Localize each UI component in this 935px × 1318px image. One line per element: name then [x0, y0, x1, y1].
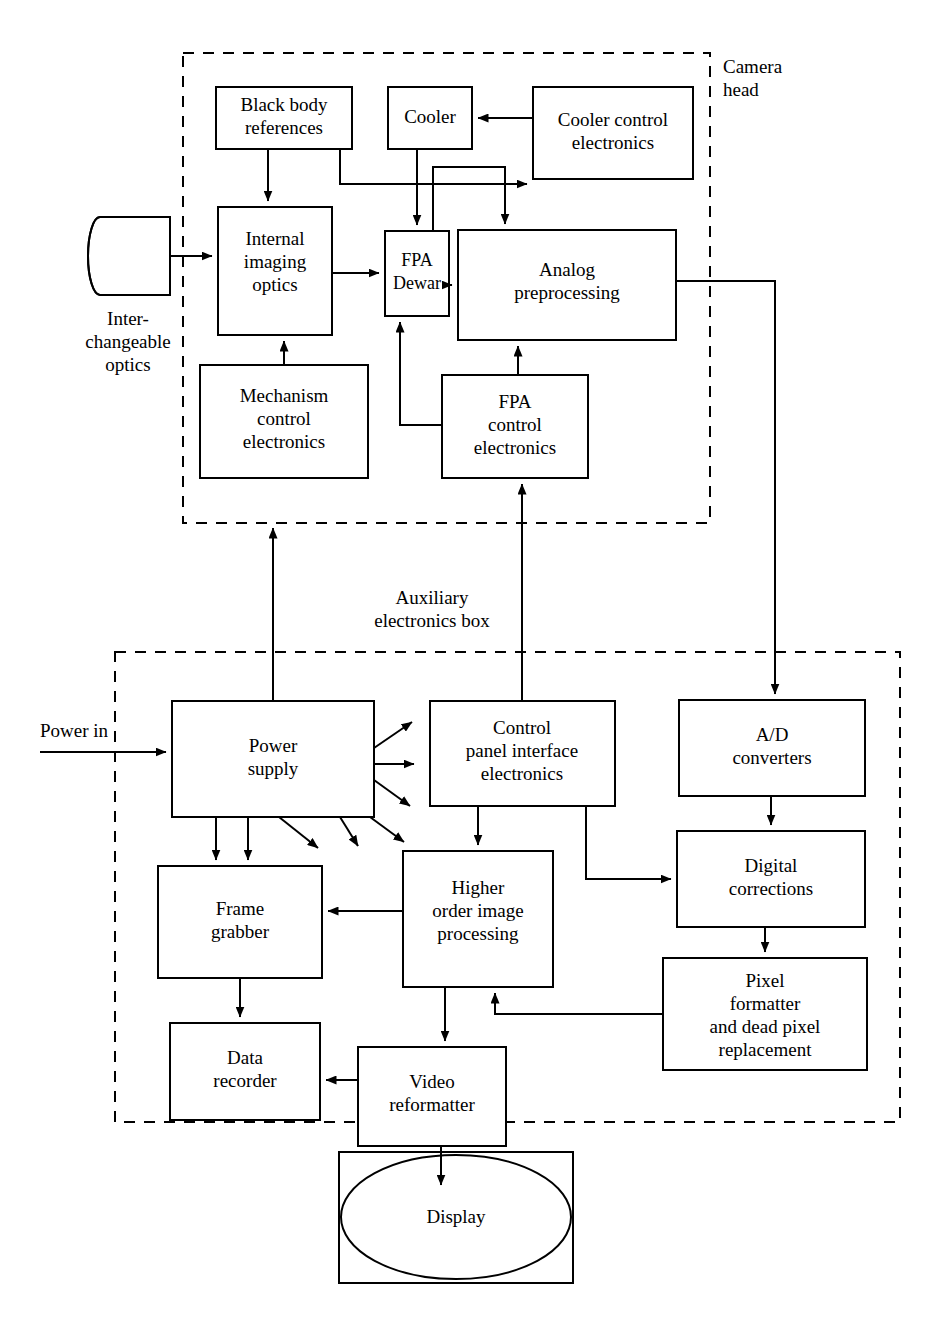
- internal-imaging-line2: imaging: [244, 251, 307, 272]
- video-reformatter-line2: reformatter: [389, 1094, 475, 1115]
- control-panel-line1: Control: [493, 717, 551, 738]
- black-body-references-line1: Black body: [240, 94, 328, 115]
- analog-preprocessing-line2: preprocessing: [514, 282, 620, 303]
- mechanism-control-line1: Mechanism: [240, 385, 329, 406]
- interchangeable-optics-caption-3: optics: [105, 354, 150, 375]
- block-black-body-references[interactable]: Black body references: [216, 87, 352, 149]
- block-analog-preprocessing[interactable]: Analog preprocessing: [458, 230, 676, 340]
- fpa-control-line1: FPA: [498, 391, 531, 412]
- block-video-reformatter[interactable]: Video reformatter: [358, 1047, 506, 1146]
- higher-order-line1: Higher: [452, 877, 505, 898]
- link-fpa-control-to-fpa-dewar: [400, 322, 442, 425]
- block-mechanism-control-electronics[interactable]: Mechanism control electronics: [200, 365, 368, 478]
- mechanism-control-line3: electronics: [243, 431, 325, 452]
- cooler-label: Cooler: [404, 106, 456, 127]
- higher-order-line3: processing: [437, 923, 519, 944]
- link-power-fanout-3: [374, 780, 410, 806]
- block-fpa-dewar[interactable]: FPA Dewar: [385, 231, 449, 316]
- block-control-panel-interface-electronics[interactable]: Control panel interface electronics: [430, 701, 615, 806]
- block-ad-converters[interactable]: A/D converters: [679, 700, 865, 796]
- fpa-dewar-line2: Dewar: [393, 273, 441, 293]
- link-power-fanout-6: [340, 817, 358, 846]
- internal-imaging-line1: Internal: [245, 228, 304, 249]
- video-reformatter-line1: Video: [409, 1071, 454, 1092]
- block-data-recorder[interactable]: Data recorder: [170, 1023, 320, 1120]
- aux-box-label-line2: electronics box: [374, 610, 490, 631]
- data-recorder-line1: Data: [227, 1047, 263, 1068]
- control-panel-line3: electronics: [481, 763, 563, 784]
- interchangeable-optics-caption-2: changeable: [85, 331, 170, 352]
- control-panel-line2: panel interface: [466, 740, 578, 761]
- power-supply-line1: Power: [249, 735, 298, 756]
- aux-box-label-line1: Auxiliary: [396, 587, 469, 608]
- link-control-panel-to-digital-corrections: [586, 806, 671, 879]
- frame-grabber-line2: grabber: [211, 921, 270, 942]
- fpa-dewar-line1: FPA: [401, 250, 432, 270]
- diagram-canvas: Camera head Auxiliary electronics box In…: [0, 0, 935, 1318]
- pixel-formatter-line2: formatter: [730, 993, 801, 1014]
- display-label: Display: [426, 1206, 486, 1227]
- ad-converters-line2: converters: [732, 747, 811, 768]
- frame-grabber-line1: Frame: [216, 898, 265, 919]
- pixel-formatter-line1: Pixel: [745, 970, 784, 991]
- block-display[interactable]: Display: [339, 1152, 573, 1283]
- digital-corrections-line2: corrections: [729, 878, 813, 899]
- interchangeable-optics-caption-1: Inter-: [107, 308, 149, 329]
- block-fpa-control-electronics[interactable]: FPA control electronics: [442, 375, 588, 478]
- mechanism-control-line2: control: [257, 408, 311, 429]
- block-cooler-control-electronics[interactable]: Cooler control electronics: [533, 87, 693, 179]
- block-cooler[interactable]: Cooler: [388, 87, 472, 149]
- block-digital-corrections[interactable]: Digital corrections: [677, 831, 865, 927]
- internal-imaging-line3: optics: [252, 274, 297, 295]
- power-supply-line2: supply: [248, 758, 299, 779]
- link-power-fanout-1: [374, 722, 412, 748]
- block-higher-order-image-processing[interactable]: Higher order image processing: [403, 851, 553, 987]
- pixel-formatter-line3: and dead pixel: [710, 1016, 821, 1037]
- cooler-control-line2: electronics: [572, 132, 654, 153]
- ad-converters-line1: A/D: [756, 724, 789, 745]
- link-power-fanout-4: [370, 817, 404, 842]
- power-in-label: Power in: [40, 720, 109, 741]
- block-pixel-formatter[interactable]: Pixel formatter and dead pixel replaceme…: [663, 958, 867, 1070]
- block-diagram-svg: Camera head Auxiliary electronics box In…: [0, 0, 935, 1318]
- data-recorder-line2: recorder: [213, 1070, 277, 1091]
- link-analog-preprocessing-to-ad-converters: [676, 281, 775, 694]
- fpa-control-line3: electronics: [474, 437, 556, 458]
- fpa-control-line2: control: [488, 414, 542, 435]
- camera-head-label-line2: head: [723, 79, 759, 100]
- black-body-references-line2: references: [245, 117, 323, 138]
- analog-preprocessing-line1: Analog: [539, 259, 595, 280]
- block-frame-grabber[interactable]: Frame grabber: [158, 866, 322, 978]
- camera-head-label-line1: Camera: [723, 56, 783, 77]
- link-fpa-dewar-to-analog-preprocessing-top: [433, 167, 505, 231]
- cooler-control-line1: Cooler control: [558, 109, 668, 130]
- link-pixel-formatter-to-higher-order: [495, 993, 663, 1014]
- block-interchangeable-optics[interactable]: [88, 217, 170, 295]
- higher-order-line2: order image: [432, 900, 523, 921]
- block-internal-imaging-optics[interactable]: Internal imaging optics: [218, 207, 332, 335]
- pixel-formatter-line4: replacement: [719, 1039, 813, 1060]
- digital-corrections-line1: Digital: [745, 855, 798, 876]
- block-power-supply[interactable]: Power supply: [172, 701, 374, 817]
- link-power-fanout-5: [279, 817, 318, 848]
